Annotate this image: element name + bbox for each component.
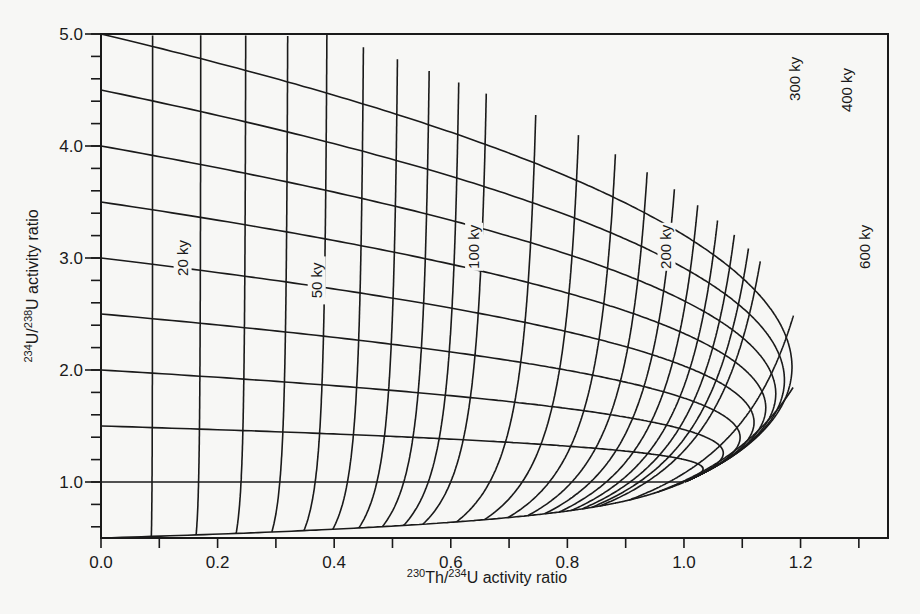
isochron-10ky	[151, 36, 152, 537]
isochron-label-300ky: 300 ky	[786, 56, 803, 101]
isochron-label-200ky: 200 ky	[657, 224, 674, 269]
x-axis-title: 230Th/234U activity ratio	[407, 567, 567, 586]
x-tick-label: 1.2	[789, 553, 813, 572]
isochron-80ky	[382, 71, 429, 527]
isochron-220ky	[559, 205, 698, 512]
y-tick-label: 3.0	[59, 249, 83, 268]
y-axis-ticks: 1.02.03.04.05.0	[59, 25, 101, 527]
y-tick-label: 5.0	[59, 25, 83, 44]
isochron-label-20ky: 20 ky	[174, 240, 191, 276]
isochron-120ky	[457, 115, 536, 522]
x-tick-label: 0.0	[89, 553, 113, 572]
uranium-series-chart: 0.00.20.40.60.81.01.2 1.02.03.04.05.0 20…	[0, 0, 920, 614]
x-tick-label: 0.4	[322, 553, 346, 572]
y-tick-label: 4.0	[59, 137, 83, 156]
isochron-60ky	[333, 47, 364, 529]
isochron-label-100ky: 100 ky	[465, 224, 482, 269]
plot-frame	[101, 34, 888, 538]
isochron-240ky	[572, 221, 718, 511]
isochron-400ky	[629, 316, 794, 501]
y-tick-label: 2.0	[59, 361, 83, 380]
x-tick-label: 0.2	[206, 553, 230, 572]
initial-ratio-curve-2.5	[101, 314, 740, 481]
isochron-curves	[151, 35, 793, 537]
isochron-label-600ky: 600 ky	[856, 224, 873, 269]
y-tick-label: 1.0	[59, 473, 83, 492]
x-tick-label: 1.0	[672, 553, 696, 572]
x-axis-ticks: 0.00.20.40.60.81.01.2	[89, 538, 859, 572]
isochron-label-400ky: 400 ky	[838, 67, 855, 112]
isochron-40ky	[272, 36, 288, 532]
y-axis-title: 234U/238U activity ratio	[22, 209, 41, 362]
isochron-280ky	[592, 249, 749, 508]
isochron-label-50ky: 50 ky	[308, 262, 325, 298]
isochron-30ky	[236, 35, 246, 533]
initial-ratio-curve-1.5	[101, 426, 703, 482]
initial-ratio-curve-4.5	[101, 90, 784, 481]
